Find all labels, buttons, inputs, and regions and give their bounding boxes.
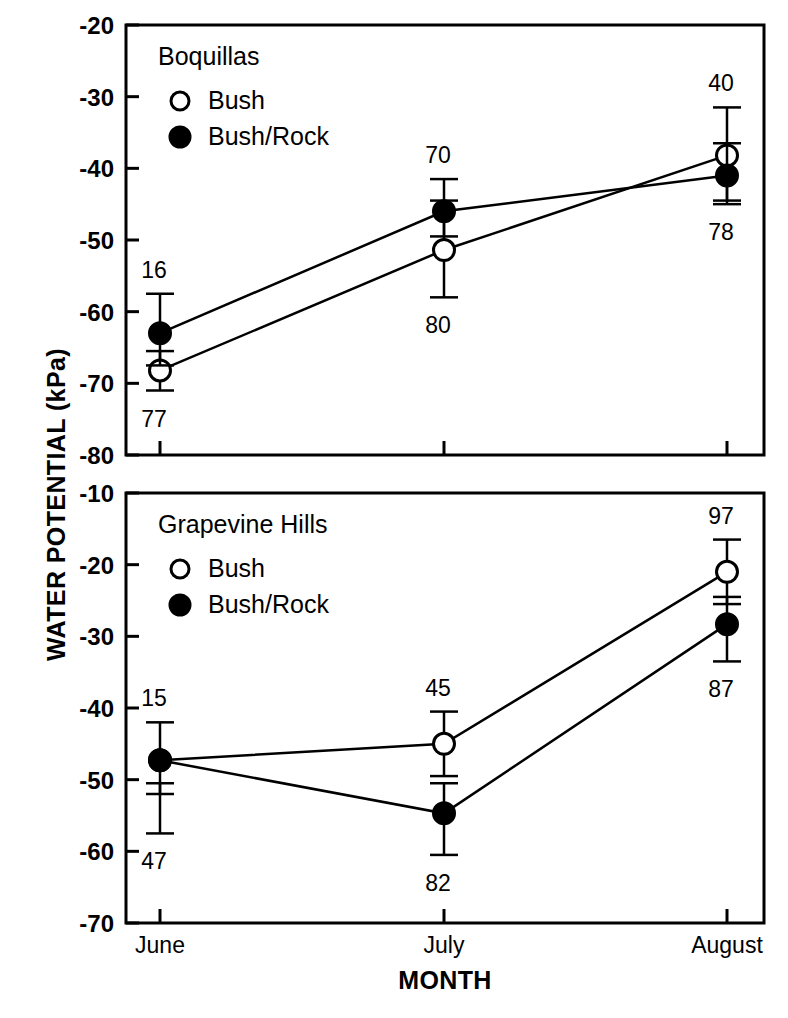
point-label: 78 (708, 219, 734, 245)
legend-label: Bush/Rock (208, 590, 329, 618)
y-tick-label: -20 (79, 12, 114, 39)
data-point-filled-circle (150, 750, 171, 771)
point-label: 87 (708, 676, 734, 702)
y-tick-label: -80 (79, 442, 114, 469)
x-tick-label: July (424, 932, 465, 958)
point-label: 77 (141, 406, 167, 432)
panel-bottom: -10-20-30-40-50-60-70154597478287Grapevi… (79, 480, 764, 937)
point-label: 45 (425, 675, 451, 701)
legend-label: Bush (208, 86, 265, 114)
point-label: 70 (425, 142, 451, 168)
legend-marker-open-circle (171, 560, 189, 578)
y-tick-label: -10 (79, 480, 114, 507)
y-tick-label: -40 (79, 695, 114, 722)
y-tick-label: -30 (79, 84, 114, 111)
data-point-open-circle (434, 733, 455, 754)
legend-marker-filled-circle (170, 127, 190, 147)
data-point-open-circle (717, 561, 738, 582)
point-label: 97 (708, 503, 734, 529)
point-label: 16 (141, 257, 167, 283)
panel-title: Boquillas (158, 42, 259, 70)
point-label: 15 (141, 685, 167, 711)
y-tick-label: -20 (79, 552, 114, 579)
y-tick-label: -50 (79, 767, 114, 794)
chart-canvas: -20-30-40-50-60-70-80778040167078Boquill… (0, 0, 788, 1018)
legend-label: Bush (208, 554, 265, 582)
panel-title: Grapevine Hills (158, 510, 328, 538)
data-point-filled-circle (717, 614, 738, 635)
point-label: 80 (425, 312, 451, 338)
y-tick-label: -40 (79, 155, 114, 182)
x-tick-label: June (135, 932, 185, 958)
data-point-open-circle (434, 240, 455, 261)
point-label: 47 (141, 848, 167, 874)
data-point-filled-circle (717, 165, 738, 186)
legend-marker-open-circle (171, 92, 189, 110)
point-label: 82 (425, 870, 451, 896)
y-tick-label: -60 (79, 299, 114, 326)
y-tick-label: -50 (79, 227, 114, 254)
data-point-filled-circle (434, 803, 455, 824)
legend-label: Bush/Rock (208, 122, 329, 150)
y-tick-label: -70 (79, 370, 114, 397)
legend-marker-filled-circle (170, 595, 190, 615)
y-tick-label: -30 (79, 623, 114, 650)
y-tick-label: -70 (79, 910, 114, 937)
y-tick-label: -60 (79, 838, 114, 865)
data-point-filled-circle (150, 323, 171, 344)
data-point-filled-circle (434, 201, 455, 222)
point-label: 40 (708, 70, 734, 96)
water-potential-figure: WATER POTENTIAL (kPa) MONTH -20-30-40-50… (0, 0, 788, 1018)
x-tick-label: August (691, 932, 763, 958)
panel-top: -20-30-40-50-60-70-80778040167078Boquill… (79, 12, 764, 469)
